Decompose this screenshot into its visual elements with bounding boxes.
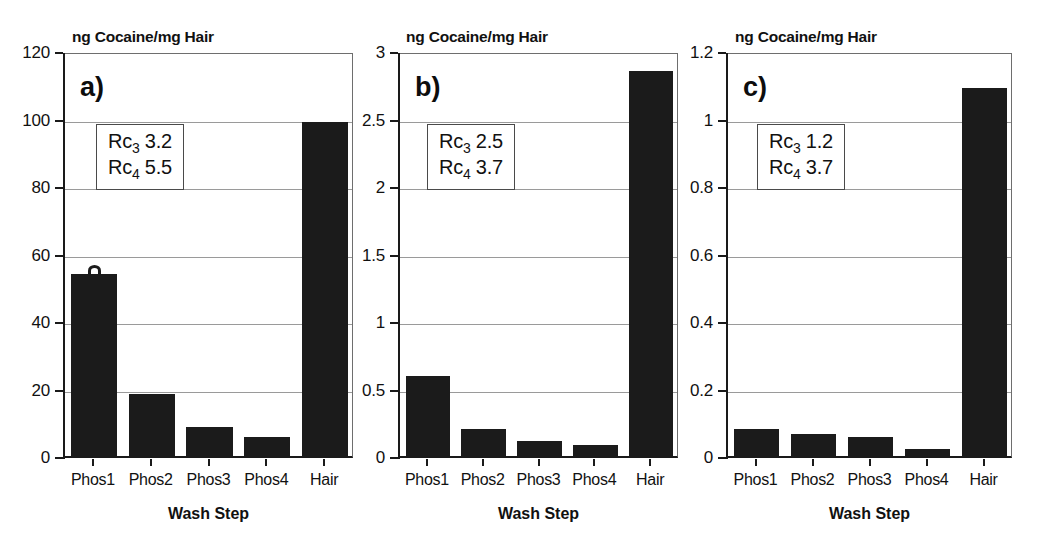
y-axis-tick-label: 0.6 bbox=[665, 246, 713, 266]
y-axis-tick bbox=[718, 52, 726, 54]
recovery-value: 3.7 bbox=[806, 156, 833, 178]
y-axis-tick-label: 0.2 bbox=[665, 381, 713, 401]
chart-panel-2: ng Cocaine/mg Hair00.20.40.60.811.2Phos1… bbox=[0, 0, 1045, 549]
x-axis-tick bbox=[755, 459, 757, 466]
plot-area bbox=[727, 53, 1012, 458]
bar bbox=[791, 434, 837, 456]
recovery-line: Rc43.7 bbox=[769, 156, 833, 182]
y-axis-tick-label: 0.8 bbox=[665, 178, 713, 198]
x-axis-tick-label: Hair bbox=[969, 471, 997, 489]
bar bbox=[848, 437, 894, 456]
y-axis-tick bbox=[718, 457, 726, 459]
bar bbox=[905, 449, 951, 456]
y-axis-tick bbox=[718, 120, 726, 122]
x-axis-tick bbox=[983, 459, 985, 466]
y-axis-tick-label: 1 bbox=[665, 111, 713, 131]
recovery-subscript: 4 bbox=[793, 166, 801, 182]
x-axis-title: Wash Step bbox=[829, 505, 910, 523]
x-axis-tick-label: Phos3 bbox=[848, 471, 892, 489]
recovery-subscript: 3 bbox=[793, 140, 801, 156]
recovery-label: Rc bbox=[769, 156, 793, 178]
panel-letter: c) bbox=[743, 72, 767, 103]
y-axis-tick bbox=[718, 187, 726, 189]
figure-canvas: ng Cocaine/mg Hair020406080100120Phos1Ph… bbox=[0, 0, 1045, 549]
recovery-line: Rc31.2 bbox=[769, 130, 833, 156]
y-axis-tick-label: 0.4 bbox=[665, 313, 713, 333]
x-axis-tick bbox=[869, 459, 871, 466]
y-axis-tick bbox=[718, 390, 726, 392]
recovery-annotation-box: Rc31.2Rc43.7 bbox=[757, 124, 845, 190]
y-axis-tick bbox=[718, 255, 726, 257]
y-axis-tick-label: 1.2 bbox=[665, 43, 713, 63]
recovery-value: 1.2 bbox=[806, 130, 833, 152]
x-axis-tick-label: Phos4 bbox=[905, 471, 949, 489]
x-axis-tick-label: Phos2 bbox=[791, 471, 835, 489]
x-axis-tick-label: Phos1 bbox=[734, 471, 778, 489]
y-axis-tick-label: 0 bbox=[665, 448, 713, 468]
bar bbox=[734, 429, 780, 456]
recovery-label: Rc bbox=[769, 130, 793, 152]
x-axis-tick bbox=[926, 459, 928, 466]
bar bbox=[962, 88, 1008, 456]
x-axis-tick bbox=[812, 459, 814, 466]
y-axis-tick bbox=[718, 322, 726, 324]
y-axis-title: ng Cocaine/mg Hair bbox=[735, 28, 877, 46]
y-axis-line bbox=[726, 53, 728, 459]
